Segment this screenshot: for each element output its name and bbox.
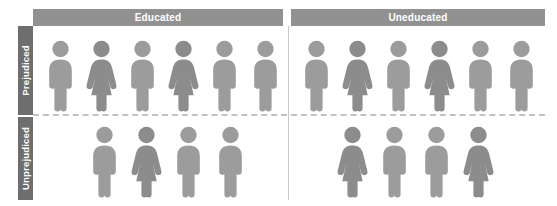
male-figure-icon xyxy=(300,40,333,112)
row-label-prejudiced: Prejudiced xyxy=(18,26,33,115)
column-header-educated-label: Educated xyxy=(135,12,182,23)
cell-uneducated-unprejudiced xyxy=(336,126,496,198)
female-figure-icon xyxy=(336,126,369,198)
female-figure-icon xyxy=(341,40,374,112)
male-figure-icon xyxy=(44,40,77,112)
horizontal-dashed-divider xyxy=(33,114,545,116)
female-figure-icon xyxy=(462,126,495,198)
male-figure-icon xyxy=(88,126,121,198)
column-header-uneducated: Uneducated xyxy=(291,9,545,26)
female-figure-icon xyxy=(167,40,200,112)
male-figure-icon xyxy=(214,126,247,198)
male-figure-icon xyxy=(464,40,497,112)
male-figure-icon xyxy=(126,40,159,112)
male-figure-icon xyxy=(420,126,453,198)
cell-uneducated-prejudiced xyxy=(300,30,540,112)
vertical-divider xyxy=(288,26,289,200)
row-label-unprejudiced: Unprejudiced xyxy=(18,117,33,200)
male-figure-icon xyxy=(208,40,241,112)
male-figure-icon xyxy=(172,126,205,198)
male-figure-icon xyxy=(382,40,415,112)
male-figure-icon xyxy=(249,40,282,112)
column-header-uneducated-label: Uneducated xyxy=(388,12,447,23)
row-label-prejudiced-text: Prejudiced xyxy=(20,45,31,96)
cell-educated-prejudiced xyxy=(44,30,284,112)
female-figure-icon xyxy=(130,126,163,198)
column-header-educated: Educated xyxy=(33,9,283,26)
male-figure-icon xyxy=(505,40,538,112)
male-figure-icon xyxy=(378,126,411,198)
row-label-unprejudiced-text: Unprejudiced xyxy=(20,127,31,190)
cell-educated-unprejudiced xyxy=(88,126,248,198)
female-figure-icon xyxy=(423,40,456,112)
pictogram-chart: Educated Uneducated Prejudiced Unprejudi… xyxy=(0,0,557,206)
female-figure-icon xyxy=(85,40,118,112)
